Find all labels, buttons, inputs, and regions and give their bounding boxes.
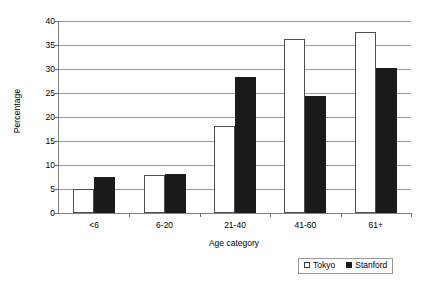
y-tick-label: 40 <box>46 16 55 26</box>
legend-label-tokyo: Tokyo <box>313 261 335 270</box>
x-tick-label-3: 41-60 <box>295 220 317 230</box>
bar-stanford-0 <box>94 177 115 213</box>
y-axis-title: Percentage <box>12 61 22 161</box>
y-tick-label: 25 <box>46 88 55 98</box>
legend-swatch-stanford-icon <box>346 262 352 268</box>
y-tick-label: 20 <box>46 112 55 122</box>
plot-area: 0510152025303540<66-2021-4041-6061+ <box>58 21 411 214</box>
bar-tokyo-2 <box>214 126 235 213</box>
bar-tokyo-0 <box>73 189 94 213</box>
bar-stanford-4 <box>376 68 397 213</box>
x-tick-label-2: 21-40 <box>224 220 246 230</box>
bar-tokyo-4 <box>355 32 376 213</box>
y-tick-label: 15 <box>46 136 55 146</box>
x-axis-title: Age category <box>58 238 410 248</box>
bar-group-1 <box>129 21 199 213</box>
bar-group-0 <box>59 21 129 213</box>
bar-group-2 <box>200 21 270 213</box>
x-tick-label-0: <6 <box>89 220 99 230</box>
chart-legend: Tokyo Stanford <box>298 258 393 274</box>
bar-chart: Percentage 0510152025303540<66-2021-4041… <box>0 0 427 284</box>
legend-item-tokyo: Tokyo <box>304 261 335 270</box>
y-tick-mark <box>55 213 59 214</box>
y-tick-label: 30 <box>46 64 55 74</box>
legend-label-stanford: Stanford <box>355 261 387 270</box>
x-tick-label-4: 61+ <box>369 220 383 230</box>
y-tick-label: 35 <box>46 40 55 50</box>
bar-stanford-2 <box>235 77 256 213</box>
x-tick-mark <box>200 213 201 217</box>
legend-swatch-tokyo-icon <box>304 262 310 268</box>
x-tick-label-1: 6-20 <box>156 220 173 230</box>
bar-group-4 <box>341 21 411 213</box>
bar-group-3 <box>270 21 340 213</box>
x-tick-mark <box>270 213 271 217</box>
x-tick-mark <box>129 213 130 217</box>
bar-stanford-1 <box>165 174 186 213</box>
y-tick-label: 10 <box>46 160 55 170</box>
legend-item-stanford: Stanford <box>346 261 387 270</box>
bar-tokyo-3 <box>284 39 305 213</box>
bar-tokyo-1 <box>144 175 165 213</box>
x-tick-mark <box>411 213 412 217</box>
bar-stanford-3 <box>305 96 326 213</box>
y-tick-label: 5 <box>50 184 55 194</box>
y-tick-label: 0 <box>50 208 55 218</box>
x-tick-mark <box>341 213 342 217</box>
